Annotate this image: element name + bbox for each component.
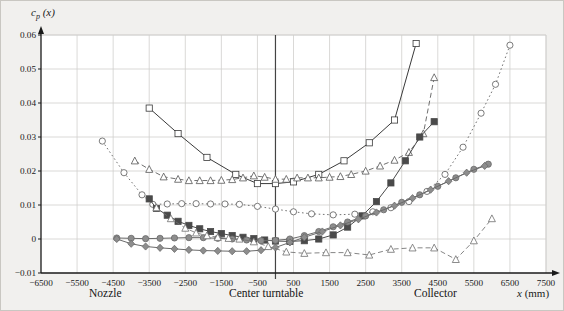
data-point-marker	[143, 236, 149, 242]
data-point-marker	[164, 201, 170, 207]
data-point-marker	[366, 140, 372, 146]
data-point-marker	[388, 180, 394, 186]
data-point-marker	[233, 171, 239, 177]
data-point-marker	[254, 203, 260, 209]
data-point-marker	[290, 209, 296, 215]
data-point-marker	[492, 81, 498, 87]
x-axis-arrowhead	[552, 270, 560, 276]
data-point-marker	[157, 235, 163, 241]
data-point-marker	[175, 131, 181, 137]
x-axis-title: x (mm)	[517, 287, 549, 299]
data-point-marker	[402, 158, 408, 164]
data-point-marker	[236, 201, 242, 207]
x-axis-title-symbol: x	[517, 287, 522, 299]
y-axis-title: cp (x)	[31, 6, 55, 21]
data-point-marker	[207, 201, 213, 207]
data-point-marker	[222, 201, 228, 207]
x-tick-label: 5500	[465, 278, 484, 288]
data-point-marker	[478, 110, 484, 116]
x-tick-label: −6500	[29, 278, 53, 288]
data-point-marker	[146, 196, 152, 202]
y-tick-label: −0.01	[15, 268, 37, 278]
data-point-marker	[330, 232, 336, 238]
x-axis-title-unit: (mm)	[525, 287, 549, 299]
data-point-marker	[316, 236, 322, 242]
data-point-marker	[442, 171, 448, 177]
data-point-marker	[186, 235, 192, 241]
data-point-marker	[146, 105, 152, 111]
y-axis-arrowhead	[38, 26, 44, 34]
x-tick-label: −2500	[174, 278, 198, 288]
x-tick-label: 1500	[320, 278, 339, 288]
data-point-marker	[413, 40, 419, 46]
figure-container: −0.0100.010.020.030.040.050.06−6500−5500…	[0, 0, 564, 311]
x-tick-label: 2500	[356, 278, 375, 288]
data-point-marker	[391, 117, 397, 123]
data-point-marker	[330, 212, 336, 218]
data-point-marker	[272, 237, 278, 243]
y-tick-label: 0.01	[20, 200, 36, 210]
data-point-marker	[207, 228, 213, 234]
y-axis-title-subscript: p	[36, 12, 40, 21]
data-point-marker	[431, 119, 437, 125]
x-tick-label: −5500	[65, 278, 89, 288]
y-tick-label: 0.06	[20, 30, 36, 40]
data-point-marker	[139, 192, 145, 198]
y-tick-label: 0.04	[20, 98, 36, 108]
data-point-marker	[258, 238, 264, 244]
data-point-marker	[254, 180, 260, 186]
data-point-marker	[373, 199, 379, 205]
data-point-marker	[460, 144, 466, 150]
data-point-marker	[507, 42, 513, 48]
data-point-marker	[352, 211, 358, 217]
x-tick-label: −3500	[137, 278, 161, 288]
y-tick-label: 0.02	[20, 166, 36, 176]
region-label-center-turntable: Center turntable	[229, 287, 303, 299]
y-tick-label: 0.03	[20, 132, 36, 142]
data-point-marker	[171, 235, 177, 241]
data-point-marker	[99, 138, 105, 144]
y-axis-title-arg: (x)	[43, 6, 55, 18]
region-label-collector: Collector	[414, 287, 457, 299]
data-point-marker	[417, 134, 423, 140]
data-point-marker	[341, 158, 347, 164]
x-tick-label: 3500	[393, 278, 412, 288]
data-point-marker	[121, 170, 127, 176]
data-point-marker	[193, 201, 199, 207]
y-tick-label: 0.05	[20, 64, 36, 74]
data-point-marker	[204, 154, 210, 160]
chart-canvas: −0.0100.010.020.030.040.050.06−6500−5500…	[1, 1, 564, 311]
data-point-marker	[272, 206, 278, 212]
y-tick-label: 0	[31, 234, 36, 244]
region-label-nozzle: Nozzle	[89, 287, 122, 299]
data-point-marker	[197, 226, 203, 232]
data-point-marker	[308, 211, 314, 217]
data-point-marker	[179, 201, 185, 207]
